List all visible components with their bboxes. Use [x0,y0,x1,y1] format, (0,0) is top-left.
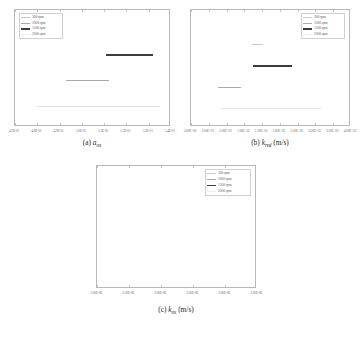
legend-label: 2000 rpm [314,32,327,37]
caption-b-subscript: red [265,142,271,148]
x-tick-label: 5.2E-01 [120,128,130,135]
plot-area-a: 300 rpm1000 rpm1500 rpm2000 rpm [14,9,170,126]
plot-area-b: 300 rpm1000 rpm1500 rpm2000 rpm [190,9,350,126]
x-tick-label: 2.50E+03 [290,128,303,135]
legend-a: 300 rpm1000 rpm1500 rpm2000 rpm [19,13,63,39]
caption-b-unit: (m/s) [273,138,289,147]
legend-entry-c-1: 1000 rpm [207,177,248,182]
legend-label: 2000 rpm [32,32,45,37]
x-axis-tick-labels-c: 1.00E-081.50E-082.00E-082.50E-083.00E-08… [88,290,264,297]
axis-tick-mark [82,123,83,125]
axis-tick-mark [193,285,194,287]
legend-swatch-icon [207,173,216,174]
axis-tick-mark [193,166,194,168]
caption-a-index: (a) [83,138,91,147]
panel-a: 300 rpm1000 rpm1500 rpm2000 rpm 4.7E-014… [14,9,182,155]
legend-entry-c-3: 2000 rpm [207,189,248,194]
panel-c: 300 rpm1000 rpm1500 rpm2000 rpm 1.00E-08… [96,165,268,325]
data-segment [221,108,320,109]
axis-tick-mark [104,123,105,125]
x-tick-label: 2.50E-08 [186,290,198,297]
x-tick-label: 3.00E+03 [308,128,321,135]
x-tick-label: 1.00E-08 [90,290,102,297]
legend-swatch-icon [21,34,30,35]
x-tick-label: 3.00E-08 [218,290,230,297]
x-tick-label: 5.3E-01 [143,128,153,135]
data-segment [66,80,108,81]
axis-tick-mark [129,285,130,287]
caption-c-index: (c) [158,305,166,314]
axis-tick-mark [333,123,334,125]
legend-entry-b-1: 1000 rpm [303,21,342,26]
x-tick-label: 5.0E-01 [76,128,86,135]
axis-tick-mark [225,166,226,168]
x-tick-label: 5.4E-01 [165,128,175,135]
legend-swatch-icon [207,179,216,180]
axis-tick-mark [262,10,263,12]
caption-b-index: (b) [251,138,260,147]
x-tick-label: 5.00E+00 [184,128,197,135]
legend-entry-a-3: 2000 rpm [21,32,60,37]
legend-swatch-icon [21,17,30,18]
axis-tick-mark [126,10,127,12]
legend-label: 1500 rpm [314,26,327,31]
x-tick-label: 1.50E-08 [122,290,134,297]
axis-tick-mark [126,123,127,125]
data-segment [253,65,291,67]
axis-tick-mark [333,10,334,12]
legend-entry-c-0: 300 rpm [207,171,248,176]
legend-entry-b-2: 1500 rpm [303,26,342,31]
x-tick-label: 4.00E+03 [344,128,357,135]
axis-tick-mark [82,10,83,12]
x-tick-label: 2.00E-08 [154,290,166,297]
axis-tick-mark [149,123,150,125]
axis-tick-mark [280,123,281,125]
axis-tick-mark [37,123,38,125]
x-tick-label: 5.1E-01 [98,128,108,135]
x-tick-label: 5.00E+02 [219,128,232,135]
axis-tick-mark [298,123,299,125]
axis-tick-mark [161,166,162,168]
caption-c-subscript: ox [172,309,177,315]
axis-tick-mark [280,10,281,12]
legend-entry-a-1: 1000 rpm [21,21,60,26]
x-tick-label: 4.8E-01 [31,128,41,135]
legend-swatch-icon [21,23,30,24]
x-tick-label: 3.50E+03 [326,128,339,135]
legend-entry-a-0: 300 rpm [21,15,60,20]
caption-a-subscript: ox [97,142,102,148]
caption-a: (a) aox [14,138,170,148]
legend-label: 1500 rpm [32,26,45,31]
legend-swatch-icon [303,28,312,30]
axis-tick-mark [15,123,16,125]
axis-tick-mark [97,166,98,168]
axis-tick-mark [227,10,228,12]
caption-c: (c) kox (m/s) [96,305,256,315]
axis-tick-mark [209,123,210,125]
axis-tick-mark [227,123,228,125]
axis-tick-mark [149,10,150,12]
legend-label: 1000 rpm [218,177,231,182]
x-tick-label: 1.00E+01 [202,128,215,135]
axis-tick-mark [191,123,192,125]
legend-swatch-icon [207,191,216,192]
axis-tick-mark [161,285,162,287]
axis-tick-mark [315,123,316,125]
legend-label: 300 rpm [32,15,44,20]
legend-c: 300 rpm1000 rpm1500 rpm2000 rpm [205,169,251,196]
x-tick-label: 1.50E+03 [255,128,268,135]
legend-label: 2000 rpm [218,189,231,194]
x-tick-label: 4.7E-01 [9,128,19,135]
axis-tick-mark [191,10,192,12]
legend-entry-b-0: 300 rpm [303,15,342,20]
plot-area-c: 300 rpm1000 rpm1500 rpm2000 rpm [96,165,256,288]
x-axis-tick-labels-b: 5.00E+001.00E+015.00E+021.00E+021.50E+03… [184,128,356,135]
legend-label: 1500 rpm [218,183,231,188]
legend-entry-b-3: 2000 rpm [303,32,342,37]
panel-b: 300 rpm1000 rpm1500 rpm2000 rpm 5.00E+00… [190,9,360,155]
legend-label: 1000 rpm [314,21,327,26]
legend-swatch-icon [21,28,30,30]
axis-tick-mark [225,285,226,287]
x-tick-label: 3.50E-08 [250,290,262,297]
x-axis-tick-labels-a: 4.7E-014.8E-014.9E-015.0E-015.1E-015.2E-… [14,128,170,135]
